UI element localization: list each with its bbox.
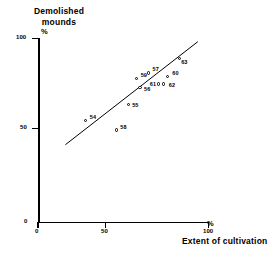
data-point-marker [147,71,150,74]
plot-area [0,0,277,254]
data-point-marker [166,75,169,78]
data-point-label: 61 [150,81,156,87]
scatter-chart: Demolished mounds % 100 50 0 0 50 100 % … [0,0,277,254]
data-point-marker [138,86,141,89]
data-point-label: 60 [172,70,178,76]
data-point-label: 55 [132,102,138,108]
data-point-marker [127,103,130,106]
data-point-label: 54 [90,114,96,120]
data-point-label: 63 [181,59,187,65]
data-point-marker [115,128,118,131]
data-point-marker [157,82,160,85]
data-point-label: 57 [153,66,159,72]
data-point-label: 62 [169,82,175,88]
data-point-label: 58 [120,124,126,130]
